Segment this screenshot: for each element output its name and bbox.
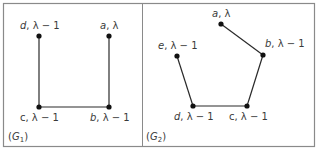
g2-caption-var: G xyxy=(150,131,158,142)
graph-figure: d, λ − 1 a, λ c, λ − 1 b, λ − 1 (G1) a, … xyxy=(0,0,319,151)
g2-caption-close: ) xyxy=(162,131,166,142)
g2-label-b-weight: , λ − 1 xyxy=(271,38,304,49)
g1-node-d xyxy=(36,33,41,38)
g1-label-d: d, λ − 1 xyxy=(20,20,60,32)
g1-node-a xyxy=(106,33,111,38)
g2-edges xyxy=(177,24,263,106)
g2-label-c: c, λ − 1 xyxy=(229,111,268,123)
g2-nodes xyxy=(174,21,265,108)
g2-label-a: a, λ xyxy=(212,8,230,20)
g2-label-b: b, λ − 1 xyxy=(265,38,305,50)
g1-label-c: c, λ − 1 xyxy=(20,112,59,124)
g1-nodes xyxy=(36,33,111,109)
g2-caption: (G2) xyxy=(146,131,166,146)
g2-edge-d-e xyxy=(177,56,193,106)
g1-caption-close: ) xyxy=(24,131,28,142)
g2-node-d xyxy=(190,103,195,108)
g1-node-c xyxy=(36,104,41,109)
g1-caption-var: G xyxy=(12,131,20,142)
g2-label-a-weight: , λ xyxy=(218,8,230,19)
g2-node-c xyxy=(244,103,249,108)
g1-label-a-weight: , λ xyxy=(106,20,118,31)
g1-node-b xyxy=(106,104,111,109)
g2-label-d-weight: , λ − 1 xyxy=(180,111,213,122)
g1-caption: (G1) xyxy=(8,131,28,146)
g1-label-c-weight: , λ − 1 xyxy=(26,112,59,123)
g2-node-a xyxy=(218,21,223,26)
g1-label-b: b, λ − 1 xyxy=(90,112,130,124)
g1-edges xyxy=(39,36,109,107)
g2-label-e-weight: , λ − 1 xyxy=(164,40,197,51)
g2-label-d: d, λ − 1 xyxy=(174,111,214,123)
g2-label-c-weight: , λ − 1 xyxy=(235,111,268,122)
g2-node-e xyxy=(174,53,179,58)
g2-edge-b-c xyxy=(247,55,263,106)
g2-edge-a-b xyxy=(221,24,263,55)
g1-label-d-weight: , λ − 1 xyxy=(26,20,59,31)
g1-label-b-weight: , λ − 1 xyxy=(96,112,129,123)
g2-label-e: e, λ − 1 xyxy=(158,40,198,52)
g1-label-a: a, λ xyxy=(100,20,118,32)
g2-node-b xyxy=(260,52,265,57)
